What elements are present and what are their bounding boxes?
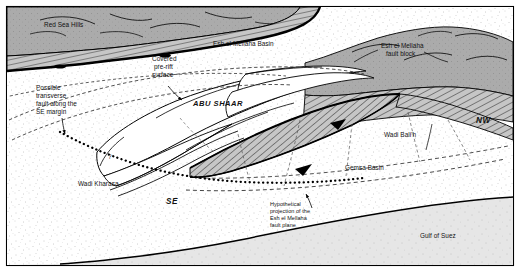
- covered-line3: surface: [152, 71, 174, 78]
- direction-nw-label: NW: [476, 116, 492, 125]
- possible-fault-line2: transverse: [36, 92, 67, 99]
- esh-el-mellaha-basin-label: Esh el Mellaha Basin: [213, 40, 274, 47]
- block-diagram-svg: Red Sea Hills Esh el Mellaha Basin Esh e…: [0, 0, 520, 272]
- label-gemsa-basin: Gemsa Basin: [345, 164, 384, 171]
- label-gulf-of-suez: Gulf of Suez: [420, 232, 456, 239]
- gemsa-basin-label: Gemsa Basin: [345, 164, 384, 171]
- hypothetical-line1: Hypothetical: [270, 201, 301, 207]
- figure-root: Red Sea Hills Esh el Mellaha Basin Esh e…: [0, 0, 520, 272]
- esh-el-mellaha-fault-block-line2: fault block: [386, 50, 416, 57]
- possible-fault-line3: fault along the: [36, 100, 77, 108]
- query-marker-label: ?: [108, 153, 112, 160]
- label-esh-el-mellaha-basin: Esh el Mellaha Basin: [213, 40, 274, 47]
- label-wadi-kharasa: Wadi Kharasa: [78, 180, 119, 187]
- hypothetical-line2: projection of the: [270, 208, 310, 214]
- hypothetical-line4: fault plane: [270, 222, 296, 228]
- esh-el-mellaha-fault-block-line1: Esh el Mellaha: [381, 42, 424, 49]
- label-direction-nw: NW: [476, 116, 492, 125]
- label-abu-shaar: ABU SHAAR: [192, 99, 243, 108]
- label-query-marker: ?: [108, 153, 112, 160]
- covered-line2: pre-rift: [154, 63, 173, 71]
- label-direction-se: SE: [166, 197, 178, 206]
- wadi-balih-label: Wadi Bali'h: [384, 131, 416, 138]
- direction-se-label: SE: [166, 197, 178, 206]
- red-sea-hills-label: Red Sea Hills: [44, 21, 83, 28]
- possible-fault-line1: Possible: [36, 84, 61, 91]
- gulf-of-suez-label: Gulf of Suez: [420, 232, 456, 239]
- possible-fault-line4: SE margin: [36, 108, 67, 116]
- wadi-kharasa-label: Wadi Kharasa: [78, 180, 119, 187]
- covered-line1: Covered: [152, 55, 177, 62]
- label-wadi-balih: Wadi Bali'h: [384, 131, 416, 138]
- abu-shaar-label: ABU SHAAR: [192, 99, 243, 108]
- label-red-sea-hills: Red Sea Hills: [44, 21, 83, 28]
- hypothetical-line3: Esh el Mellaha: [270, 215, 308, 221]
